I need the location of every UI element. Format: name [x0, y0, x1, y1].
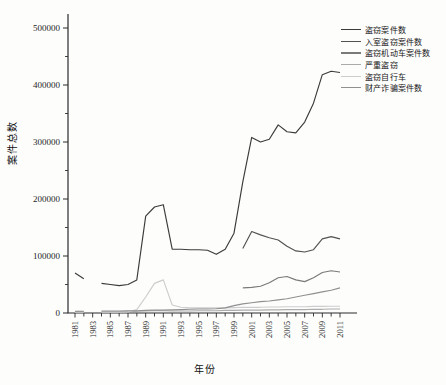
- legend-swatch: [341, 41, 361, 42]
- series-line-2: [243, 271, 340, 288]
- x-tick-label: 1981: [70, 321, 80, 338]
- legend-swatch: [341, 29, 361, 30]
- x-tick-label: 1997: [211, 321, 221, 338]
- legend-label: 入室盗窃案件数: [365, 36, 422, 47]
- x-tick-label: 2007: [300, 321, 310, 338]
- y-tick-label: 100000: [33, 251, 61, 261]
- y-tick-label: 300000: [33, 137, 61, 147]
- y-tick-label: 500000: [33, 23, 61, 33]
- y-axis-title: 案件总数: [4, 151, 19, 165]
- series-line-4: [102, 280, 341, 312]
- legend-item: 严重盗窃: [341, 59, 431, 71]
- x-tick-label: 1983: [88, 321, 98, 338]
- x-tick-label: 2003: [264, 321, 274, 338]
- x-tick-label: 1991: [158, 321, 168, 338]
- chart-figure: 0100000200000300000400000500000198119831…: [0, 0, 446, 385]
- x-tick-label: 2011: [335, 321, 345, 338]
- series-line-0: [102, 71, 341, 285]
- legend: 盗窃案件数入室盗窃案件数盗窃机动车案件数严重盗窃盗窃自行车财产诈骗案件数: [341, 24, 431, 94]
- x-tick-label: 2001: [247, 321, 257, 338]
- y-tick-label: 200000: [33, 194, 61, 204]
- x-tick-label: 2005: [282, 321, 292, 338]
- x-tick-label: 1989: [141, 321, 151, 338]
- legend-item: 财产诈骗案件数: [341, 82, 431, 94]
- x-tick-label: 1999: [229, 321, 239, 338]
- x-tick-label: 2009: [317, 321, 327, 338]
- x-axis-title: 年份: [0, 361, 410, 376]
- legend-label: 盗窃自行车: [365, 71, 406, 82]
- legend-label: 严重盗窃: [365, 59, 398, 70]
- legend-swatch: [341, 52, 361, 53]
- legend-swatch: [341, 64, 361, 65]
- legend-label: 财产诈骗案件数: [365, 82, 422, 93]
- legend-swatch: [341, 87, 361, 88]
- series-line-1: [243, 232, 340, 253]
- x-tick-label: 1993: [176, 321, 186, 338]
- x-tick-label: 1985: [105, 321, 115, 338]
- legend-item: 入室盗窃案件数: [341, 36, 431, 48]
- x-tick-label: 1995: [194, 321, 204, 338]
- legend-label: 盗窃机动车案件数: [365, 47, 431, 58]
- legend-label: 盗窃案件数: [365, 24, 406, 35]
- legend-swatch: [341, 76, 361, 77]
- y-tick-label: 0: [56, 308, 61, 318]
- legend-item: 盗窃机动车案件数: [341, 47, 431, 59]
- legend-item: 盗窃自行车: [341, 70, 431, 82]
- series-line-0: [75, 273, 84, 279]
- legend-item: 盗窃案件数: [341, 24, 431, 36]
- y-tick-label: 400000: [33, 80, 61, 90]
- axis-spines: [68, 14, 357, 313]
- x-tick-label: 1987: [123, 321, 133, 338]
